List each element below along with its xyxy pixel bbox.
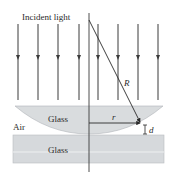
plate-glass-label: Glass bbox=[48, 145, 68, 155]
radius-r-label: r bbox=[112, 112, 116, 122]
newtons-rings-diagram: Incident light R Glass r Air d Glass bbox=[0, 0, 178, 176]
gap-d-label: d bbox=[149, 125, 154, 135]
gap-d-marker bbox=[143, 125, 147, 134]
incident-light-label: Incident light bbox=[22, 12, 71, 22]
glass-plate bbox=[13, 135, 164, 163]
radius-R-label: R bbox=[123, 78, 130, 88]
incident-rays bbox=[18, 24, 158, 100]
air-label: Air bbox=[13, 122, 25, 132]
lens-glass-label: Glass bbox=[48, 114, 68, 124]
